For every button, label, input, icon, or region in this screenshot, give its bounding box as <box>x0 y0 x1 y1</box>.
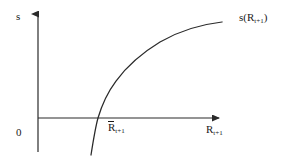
savings-function-figure: s 0 s(Rt+1) Rt+1 Rt+1 <box>0 0 288 161</box>
curve-label: s(Rt+1) <box>239 12 267 23</box>
curve-label-suffix: ) <box>264 11 268 23</box>
threshold-label-subscript: t+1 <box>115 127 124 135</box>
x-axis-label: Rt+1 <box>206 124 223 135</box>
threshold-label: Rt+1 <box>108 122 125 133</box>
savings-curve <box>91 22 222 155</box>
curve-label-subscript: t+1 <box>254 17 263 25</box>
y-axis-label: s <box>16 11 20 22</box>
origin-label: 0 <box>16 127 22 138</box>
figure-canvas <box>0 0 288 161</box>
curve-label-prefix: s( <box>239 11 247 23</box>
x-axis-label-subscript: t+1 <box>213 129 222 137</box>
